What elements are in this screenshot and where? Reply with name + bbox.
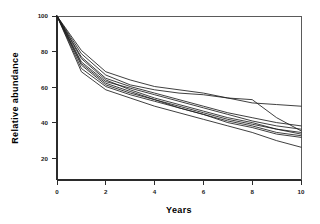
x-axis-title: Years (166, 205, 192, 215)
y-tick-label-100: 100 (38, 12, 49, 19)
line-chart-svg: 100 80 60 40 20 0 2 4 6 8 10 Years Relat… (0, 0, 320, 224)
x-tick-label-0: 0 (55, 188, 59, 195)
y-tick-label-80: 80 (41, 48, 48, 55)
y-axis-title: Relative abundance (10, 52, 20, 144)
chart-figure: 100 80 60 40 20 0 2 4 6 8 10 Years Relat… (0, 0, 320, 224)
y-tick-label-20: 20 (41, 155, 48, 162)
y-tick-label-60: 60 (41, 84, 48, 91)
y-tick-label-40: 40 (41, 119, 48, 126)
x-tick-label-10: 10 (298, 188, 305, 195)
chart-background (0, 0, 320, 224)
x-tick-label-4: 4 (153, 188, 157, 195)
x-tick-label-8: 8 (250, 188, 254, 195)
x-tick-label-6: 6 (202, 188, 206, 195)
x-tick-label-2: 2 (104, 188, 108, 195)
